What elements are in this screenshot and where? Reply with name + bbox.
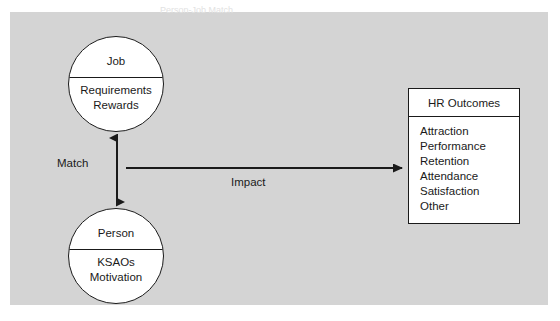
job-node-divider [68, 77, 164, 78]
hr-outcome-item: Retention [420, 154, 519, 169]
hr-outcomes-header: HR Outcomes [409, 89, 519, 117]
person-node: Person KSAOs Motivation [68, 208, 164, 304]
diagram-caption: Person-Job Match [160, 6, 420, 14]
impact-arrow-label: Impact [231, 176, 266, 188]
impact-arrow [122, 158, 410, 178]
job-node-attributes: Requirements Rewards [69, 83, 163, 112]
hr-outcome-item: Satisfaction [420, 184, 519, 199]
job-node-title: Job [69, 55, 163, 67]
hr-outcome-item: Attendance [420, 169, 519, 184]
hr-outcome-item: Attraction [420, 124, 519, 139]
diagram-panel: Person-Job Match Job Requirements Reward… [10, 12, 548, 305]
person-node-divider [68, 249, 164, 250]
job-node: Job Requirements Rewards [68, 36, 164, 132]
hr-outcome-item: Performance [420, 139, 519, 154]
person-node-attributes: KSAOs Motivation [69, 255, 163, 284]
hr-outcome-item: Other [420, 199, 519, 214]
hr-outcomes-list: Attraction Performance Retention Attenda… [409, 117, 519, 214]
match-arrow-label: Match [57, 157, 88, 169]
person-node-title: Person [69, 227, 163, 239]
hr-outcomes-box: HR Outcomes Attraction Performance Reten… [408, 88, 520, 224]
